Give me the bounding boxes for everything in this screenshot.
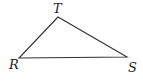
vertex-label-s: S — [128, 60, 137, 75]
vertex-label-t: T — [53, 1, 63, 16]
vertex-label-r: R — [8, 57, 19, 72]
triangle-diagram: T R S — [0, 0, 143, 82]
triangle-rts — [19, 17, 127, 58]
